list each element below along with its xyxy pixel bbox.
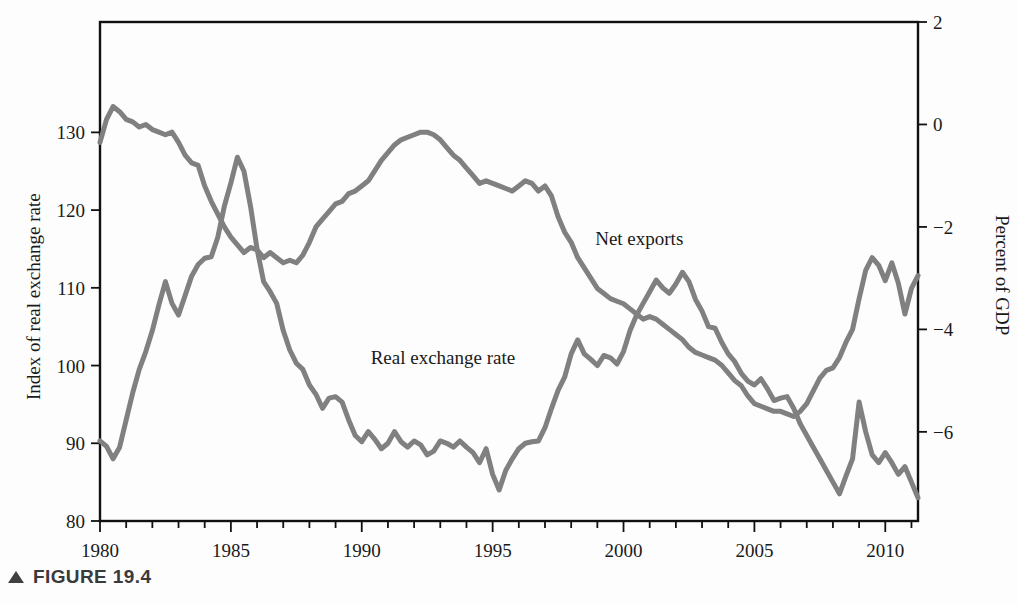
series-label-real-exchange-rate: Real exchange rate <box>371 347 516 368</box>
left-tick-label: 90 <box>66 433 85 454</box>
x-axis-ticks: 1980198519901995200020052010 <box>81 521 911 560</box>
exchange-rate-net-exports-chart: Index of real exchange rate Percent of G… <box>0 0 1018 560</box>
x-tick-label: 2005 <box>735 540 773 560</box>
series-annotations: Real exchange rateNet exports <box>371 228 684 368</box>
left-tick-label: 110 <box>57 278 85 299</box>
left-tick-label: 130 <box>57 122 86 143</box>
series-label-net-exports: Net exports <box>595 228 683 249</box>
right-tick-label: 0 <box>933 114 943 135</box>
right-tick-label: 2 <box>933 12 943 33</box>
left-tick-label: 120 <box>57 200 86 221</box>
triangle-up-icon <box>8 571 24 583</box>
left-axis-title: Index of real exchange rate <box>23 193 44 400</box>
right-axis-ticks: −6−4−202 <box>918 12 954 443</box>
series-line-net-exports <box>100 107 918 417</box>
plot-frame <box>100 22 918 521</box>
series-lines <box>100 107 918 498</box>
right-tick-label: −4 <box>933 319 954 340</box>
x-tick-label: 2000 <box>605 540 643 560</box>
x-tick-label: 1980 <box>81 540 119 560</box>
series-line-real-exchange-rate <box>100 157 918 497</box>
figure-caption: FIGURE 19.4 <box>8 566 151 588</box>
figure-root: Index of real exchange rate Percent of G… <box>0 0 1018 604</box>
x-tick-label: 1995 <box>474 540 512 560</box>
figure-caption-text: FIGURE 19.4 <box>33 566 151 588</box>
left-tick-label: 100 <box>57 356 86 377</box>
x-tick-label: 1990 <box>343 540 381 560</box>
right-tick-label: −6 <box>933 422 953 443</box>
left-axis-ticks: 8090100110120130 <box>57 122 101 532</box>
right-axis-title: Percent of GDP <box>992 215 1013 335</box>
x-tick-label: 2010 <box>866 540 904 560</box>
left-tick-label: 80 <box>66 511 85 532</box>
right-tick-label: −2 <box>933 217 953 238</box>
x-tick-label: 1985 <box>212 540 250 560</box>
